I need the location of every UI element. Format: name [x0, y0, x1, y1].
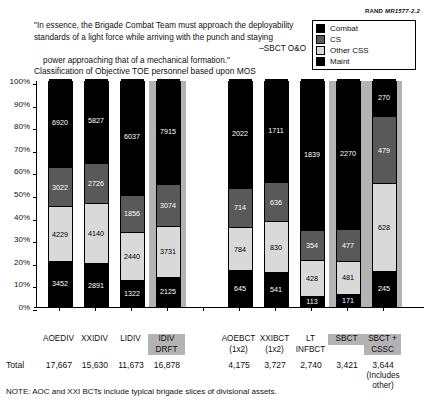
x-category-label-line2-sbctcssc: CSSC — [364, 345, 401, 356]
bar-segment-xxidiv-cs[interactable]: 2726 — [85, 164, 108, 204]
total-note-sbctcssc-1: other) — [362, 381, 404, 392]
bar-segment-aoediv-maint[interactable]: 3452 — [49, 262, 72, 306]
y-tick-label-30: 30% — [14, 235, 30, 244]
legend-swatch-other_css-icon — [316, 46, 325, 55]
y-tick-label-20: 20% — [14, 257, 30, 266]
bar-segment-aoediv-cs[interactable]: 3022 — [49, 168, 72, 207]
bar-segment-value-sbct-othercss: 481 — [342, 274, 354, 281]
bar-sbctcssc[interactable]: 245628479270 — [372, 81, 397, 307]
bar-segment-ltinfbct-cs[interactable]: 354 — [301, 231, 324, 261]
bar-segment-value-idivdrft-maint: 2125 — [160, 288, 176, 295]
bar-idivdrft[interactable]: 2125373130747915 — [156, 81, 181, 307]
total-number-sbct: 3,421 — [336, 360, 358, 370]
bar-segment-value-aoebct-combat: 2022 — [232, 130, 248, 137]
bar-sbct[interactable]: 1714814772270 — [336, 81, 361, 307]
bar-xxidiv[interactable]: 2891414027265827 — [84, 81, 109, 307]
x-category-label-aoediv: AOEDIV — [40, 334, 77, 345]
bar-aoediv[interactable]: 3452422930226920 — [48, 81, 73, 307]
bar-segment-aoebct-combat[interactable]: 2022 — [229, 79, 252, 189]
y-tick-label-60: 60% — [14, 167, 30, 176]
bar-segment-ltinfbct-combat[interactable]: 1839 — [301, 79, 324, 231]
bar-segment-sbctcssc-maint[interactable]: 245 — [373, 272, 396, 306]
bar-segment-ltinfbct-maint[interactable]: 113 — [301, 297, 324, 306]
x-category-label-xxidiv: XXIDIV — [76, 334, 113, 345]
bar-segment-lidiv-othercss[interactable]: 2440 — [121, 233, 144, 281]
bar-segment-xxibct-maint[interactable]: 541 — [265, 273, 288, 306]
y-axis: 0%10%20%30%40%50%60%70%80%90%100% — [0, 78, 33, 310]
x-category-label-line1-xxibct: XXIBCT — [260, 334, 290, 343]
bar-segment-value-ltinfbct-othercss: 428 — [306, 275, 318, 282]
x-tick-mark-xxidiv — [95, 307, 96, 311]
total-number-ltinfbct: 2,740 — [300, 360, 322, 370]
total-note-sbctcssc-0: (Includes — [362, 371, 404, 382]
bar-segment-sbctcssc-combat[interactable]: 270 — [373, 79, 396, 117]
bar-segment-aoebct-maint[interactable]: 645 — [229, 271, 252, 306]
x-category-label-line1-sbct: SBCT — [336, 334, 358, 343]
bar-segment-value-aoediv-othercss: 4229 — [52, 231, 68, 238]
legend-label-maint: Maint — [330, 57, 350, 66]
bar-aoebct[interactable]: 6457847142022 — [228, 81, 253, 307]
x-axis-category-labels: AOEDIVXXIDIVLIDIVIDIVDRFTAOEBCT(1x2)XXIB… — [0, 334, 426, 362]
bar-xxibct[interactable]: 5418306361711 — [264, 81, 289, 307]
bar-segment-sbct-cs[interactable]: 477 — [337, 230, 360, 262]
x-category-label-sbctcssc: SBCT +CSSC — [364, 334, 401, 355]
plot-area: 3452422930226920289141402726582713222440… — [36, 81, 414, 307]
x-category-label-line1-idivdrft: IDIV — [159, 334, 175, 343]
y-tick-mark-40 — [33, 220, 37, 221]
bar-segment-xxidiv-combat[interactable]: 5827 — [85, 79, 108, 164]
bar-lidiv[interactable]: 1322244018566037 — [120, 81, 145, 307]
bar-segment-value-xxibct-combat: 1711 — [268, 127, 283, 134]
bar-segment-aoebct-cs[interactable]: 714 — [229, 189, 252, 228]
bar-segment-value-ltinfbct-cs: 354 — [306, 242, 318, 249]
bar-segment-idivdrft-othercss[interactable]: 3731 — [157, 227, 180, 278]
x-axis-line — [34, 307, 424, 308]
x-tick-mark-aoebct — [239, 307, 240, 311]
quote-line-3-text: power approaching that of a mechanical f… — [43, 56, 230, 65]
legend-item-other_css: Other CSS — [316, 45, 412, 56]
bar-segment-sbctcssc-cs[interactable]: 479 — [373, 117, 396, 184]
bar-segment-xxibct-othercss[interactable]: 830 — [265, 222, 288, 273]
bar-segment-value-idivdrft-othercss: 3731 — [160, 248, 176, 255]
bar-segment-sbct-othercss[interactable]: 481 — [337, 262, 360, 295]
bar-segment-aoebct-othercss[interactable]: 784 — [229, 228, 252, 271]
bar-segment-idivdrft-cs[interactable]: 3074 — [157, 185, 180, 227]
bar-segment-xxidiv-othercss[interactable]: 4140 — [85, 204, 108, 265]
y-tick-mark-30 — [33, 242, 37, 243]
bar-segment-ltinfbct-othercss[interactable]: 428 — [301, 261, 324, 297]
x-category-label-line1-ltinfbct: LT — [306, 334, 315, 343]
bar-segment-aoediv-othercss[interactable]: 4229 — [49, 207, 72, 262]
x-category-label-idivdrft: IDIVDRFT — [148, 334, 185, 355]
x-tick-mark-lidiv — [131, 307, 132, 311]
bar-segment-lidiv-maint[interactable]: 1322 — [121, 281, 144, 306]
x-category-label-sbct: SBCT — [328, 334, 365, 345]
bar-segment-value-aoebct-othercss: 784 — [234, 246, 246, 253]
x-tick-mark-sbct — [347, 307, 348, 311]
quote-line-1: "In essence, the Brigade Combat Team mus… — [34, 20, 306, 32]
bar-segment-value-sbct-combat: 2270 — [340, 150, 356, 157]
total-number-sbctcssc: 3,644 — [372, 360, 394, 370]
legend-item-cs: CS — [316, 34, 412, 45]
total-number-lidiv: 11,673 — [118, 360, 144, 370]
bar-segment-sbctcssc-othercss[interactable]: 628 — [373, 184, 396, 272]
bar-segment-value-xxibct-cs: 636 — [270, 199, 282, 206]
bar-segment-sbct-maint[interactable]: 171 — [337, 295, 360, 306]
bar-segment-xxidiv-maint[interactable]: 2891 — [85, 264, 108, 306]
x-category-label-ltinfbct: LTINFBCT — [292, 334, 329, 355]
bar-segment-lidiv-combat[interactable]: 6037 — [121, 79, 144, 196]
bar-segment-xxibct-combat[interactable]: 1711 — [265, 79, 288, 183]
y-tick-mark-0 — [33, 310, 37, 311]
bar-segment-sbct-combat[interactable]: 2270 — [337, 79, 360, 230]
bar-segment-value-lidiv-combat: 6037 — [124, 133, 140, 140]
legend-item-combat: Combat — [316, 23, 412, 34]
total-number-idivdrft: 16,878 — [154, 360, 180, 370]
bar-segment-aoediv-combat[interactable]: 6920 — [49, 79, 72, 168]
y-tick-label-70: 70% — [14, 144, 30, 153]
x-category-label-line1-lidiv: LIDIV — [120, 334, 140, 343]
bar-segment-idivdrft-combat[interactable]: 7915 — [157, 79, 180, 185]
bar-ltinfbct[interactable]: 1134283541839 — [300, 81, 325, 307]
bar-segment-xxibct-cs[interactable]: 636 — [265, 183, 288, 222]
bar-segment-lidiv-cs[interactable]: 1856 — [121, 196, 144, 233]
bar-segment-value-ltinfbct-combat: 1839 — [304, 151, 320, 158]
bar-segment-idivdrft-maint[interactable]: 2125 — [157, 278, 180, 306]
totals-row-label: Total — [6, 360, 24, 370]
